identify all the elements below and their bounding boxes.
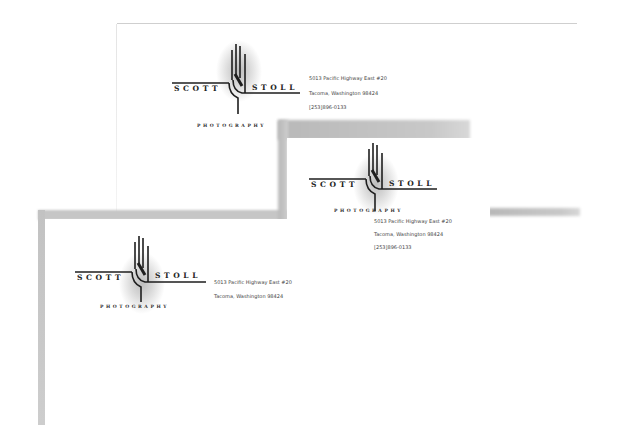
- address-phone: [253]896-0133: [309, 104, 347, 110]
- logo-first-name: S C O T T: [174, 84, 218, 93]
- logo: S C O T T S T O L L P H O T O G R A P H …: [75, 252, 205, 322]
- sheet-shadow: [38, 210, 45, 425]
- logo-last-name: S T O L L: [389, 179, 432, 188]
- address-line2: Tacoma, Washington 98424: [214, 293, 283, 299]
- logo: S C O T T S T O L L P H O T O G R A P H …: [309, 153, 439, 223]
- address-line1: 5013 Pacific Highway East #20: [214, 279, 292, 285]
- logo-tagline: P H O T O G R A P H Y: [197, 123, 264, 128]
- card-shadow: [488, 208, 580, 216]
- logo-first-name: S C O T T: [77, 273, 121, 282]
- address-line1: 5013 Pacific Highway East #20: [309, 75, 387, 81]
- business-card: S C O T T S T O L L P H O T O G R A P H …: [287, 138, 490, 248]
- lower-sheet: [45, 219, 288, 427]
- logo-last-name: S T O L L: [155, 271, 198, 280]
- address-line2: Tacoma, Washington 98424: [374, 231, 443, 237]
- logo-first-name: S C O T T: [311, 180, 355, 189]
- address-phone: [253]896-0133: [374, 244, 412, 250]
- lower-sheet-extension: [288, 245, 625, 427]
- address-line2: Tacoma, Washington 98424: [309, 90, 378, 96]
- logo-last-name: S T O L L: [252, 83, 295, 92]
- address-line1: 5013 Pacific Highway East #20: [374, 218, 452, 224]
- logo: S C O T T S T O L L P H O T O G R A P H …: [172, 40, 302, 110]
- logo-tagline: P H O T O G R A P H Y: [100, 304, 167, 309]
- hand-logo-icon: [75, 252, 265, 322]
- logo-tagline: P H O T O G R A P H Y: [334, 208, 401, 213]
- card-shadow: [278, 120, 470, 140]
